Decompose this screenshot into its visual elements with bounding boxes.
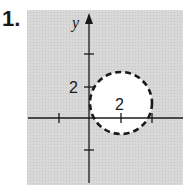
- y-axis-label: y: [70, 14, 80, 32]
- coordinate-graph: y 2 2: [0, 0, 183, 185]
- x-tick-label: 2: [115, 96, 124, 113]
- y-tick-label: 2: [69, 79, 78, 96]
